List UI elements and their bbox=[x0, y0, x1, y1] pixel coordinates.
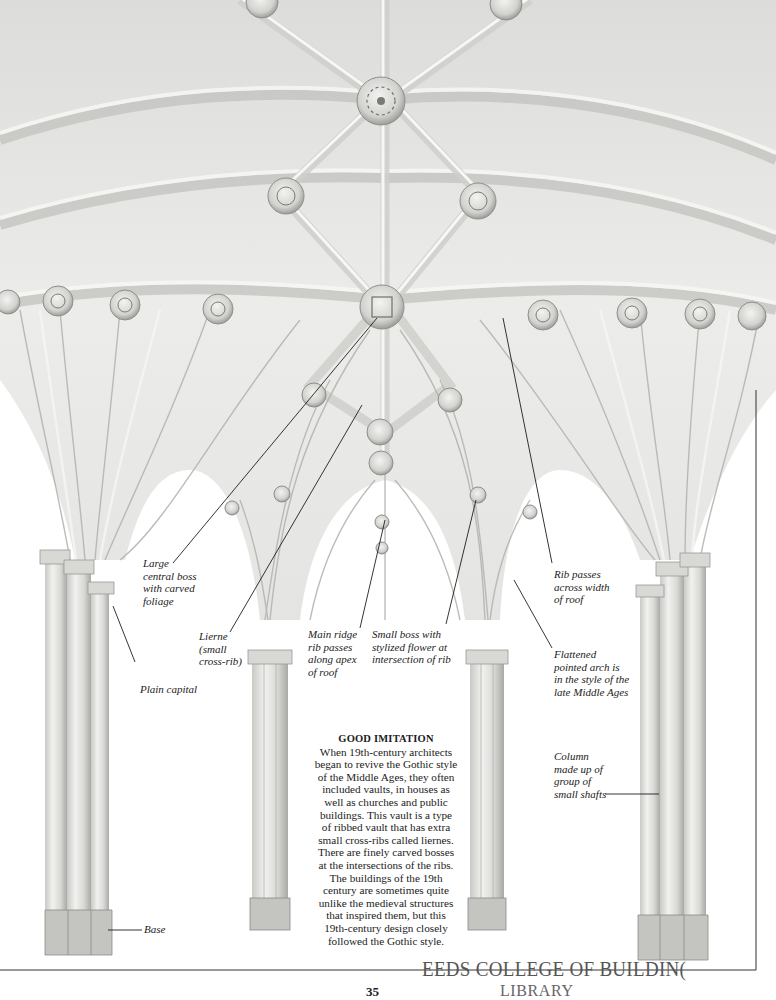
annotation-lierne: Lierne (small cross-rib) bbox=[199, 630, 242, 668]
library-stamp-line2: LIBRARY bbox=[500, 982, 574, 1000]
annotation-main-ridge-rib: Main ridge rib passes along apex of roof bbox=[308, 628, 357, 678]
caption-body: When 19th-century architects began to re… bbox=[284, 746, 488, 948]
page-number: 35 bbox=[366, 984, 379, 1000]
annotation-plain-capital: Plain capital bbox=[140, 683, 197, 696]
annotation-flattened-arch: Flattened pointed arch is in the style o… bbox=[554, 648, 629, 698]
vault-ceiling bbox=[0, 0, 776, 620]
annotation-large-central-boss: Large central boss with carved foliage bbox=[143, 557, 196, 607]
annotation-rib-passes: Rib passes across width of roof bbox=[554, 568, 610, 606]
boss-large-central bbox=[360, 285, 404, 329]
annotation-column: Column made up of group of small shafts bbox=[554, 750, 606, 800]
library-stamp-line1: EEDS COLLEGE OF BUILDIN( bbox=[422, 957, 686, 981]
column-left bbox=[40, 550, 114, 955]
caption-title: GOOD IMITATION bbox=[284, 733, 488, 746]
annotation-base: Base bbox=[144, 923, 165, 936]
column-right bbox=[636, 553, 710, 960]
annotation-small-boss: Small boss with stylized flower at inter… bbox=[372, 628, 451, 666]
caption-good-imitation: GOOD IMITATION When 19th-century archite… bbox=[284, 733, 488, 947]
boss-top-center bbox=[357, 77, 405, 125]
